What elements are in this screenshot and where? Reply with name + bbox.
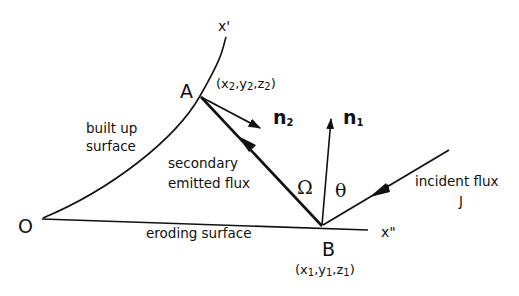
point-B-label: B (322, 238, 335, 260)
omega-angle-label: Ω (297, 176, 313, 198)
point-O-label: O (18, 215, 33, 237)
point-A-label: A (180, 80, 193, 102)
incident-flux-symbol: J (458, 193, 463, 209)
built-up-surface-label-line1: built up (86, 120, 137, 136)
axis-x-double-prime-label: x" (381, 224, 396, 240)
point-A-coordinates: (x2,y2,z2) (216, 76, 276, 92)
point-B-coordinates: (x1,y1,z1) (295, 262, 355, 278)
flux-geometry-diagram: x' x" A O B (x2,y2,z2) (x1,y1,z1) n2 n1 … (0, 0, 519, 296)
normal-n1-label: n1 (343, 106, 364, 128)
eroding-surface-label: eroding surface (146, 225, 251, 241)
secondary-flux-label-line1: secondary (168, 155, 238, 171)
normal-n2-label: n2 (273, 106, 294, 128)
secondary-flux-label-line2: emitted flux (168, 175, 250, 191)
normal-n2-arrow (201, 97, 260, 128)
incident-flux-label: incident flux (415, 173, 499, 189)
built-up-surface-label-line2: surface (86, 138, 136, 154)
axis-x-prime-label: x' (218, 18, 230, 34)
theta-angle-label: θ (335, 179, 346, 201)
normal-n1-arrow (322, 119, 331, 225)
